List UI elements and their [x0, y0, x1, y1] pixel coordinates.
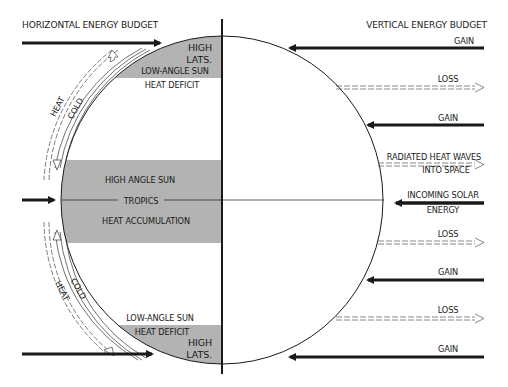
svg-text:GAIN: GAIN — [454, 36, 474, 46]
svg-text:GAIN: GAIN — [438, 113, 458, 123]
svg-text:INTO SPACE: INTO SPACE — [422, 165, 470, 175]
cold-arrowhead-bottom — [53, 230, 61, 240]
svg-text:GAIN: GAIN — [438, 267, 458, 277]
vertical-budget-title: VERTICAL ENERGY BUDGET — [366, 20, 487, 30]
horizontal-budget-title: HORIZONTAL ENERGY BUDGET — [22, 20, 159, 30]
svg-text:ENERGY: ENERGY — [427, 205, 461, 215]
svg-text:LOSS: LOSS — [438, 305, 459, 315]
svg-text:GAIN: GAIN — [438, 344, 458, 354]
tropics-label: TROPICS — [123, 196, 159, 206]
high-angle-sun: HIGH ANGLE SUN — [105, 175, 175, 185]
vertical-budget-arrows: GAIN LOSS GAIN RADIATED HEAT WAVES INTO … — [290, 36, 484, 357]
high-lats-north-1: HIGH — [188, 42, 212, 53]
high-lats-north-2: LATS. — [186, 54, 212, 65]
low-angle-sun-south: LOW-ANGLE SUN — [126, 313, 194, 323]
svg-text:INCOMING SOLAR: INCOMING SOLAR — [407, 190, 479, 200]
high-lats-south-2: LATS. — [186, 349, 212, 360]
svg-text:LOSS: LOSS — [438, 74, 459, 84]
cold-arrowhead-top — [53, 160, 61, 170]
high-lats-south-1: HIGH — [188, 337, 212, 348]
heat-accumulation: HEAT ACCUMULATION — [102, 216, 190, 226]
low-angle-sun-north: LOW-ANGLE SUN — [141, 66, 209, 76]
svg-text:LOSS: LOSS — [438, 229, 459, 239]
heat-deficit-south: HEAT DEFICIT — [135, 327, 191, 337]
heat-deficit-north: HEAT DEFICIT — [145, 80, 201, 90]
energy-budget-diagram: HEAT COLD COLD HEAT HORIZONTAL ENERGY BU… — [0, 0, 508, 387]
svg-text:RADIATED HEAT WAVES: RADIATED HEAT WAVES — [387, 152, 481, 162]
